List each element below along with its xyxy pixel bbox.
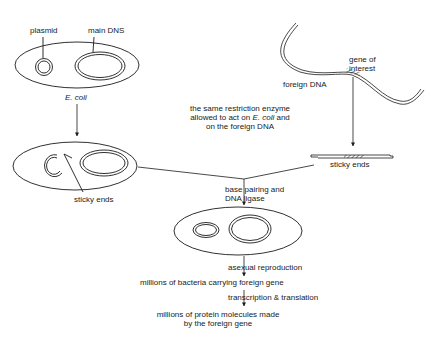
label-sticky-ends-right: sticky ends <box>330 160 370 170</box>
text-ecoli: E. coli <box>252 113 274 122</box>
ecoli-cell-recombinant <box>174 207 302 255</box>
label-transcription: transcription & translation <box>228 293 318 303</box>
label-sticky-ends-left: sticky ends <box>74 195 114 205</box>
converging-lines <box>138 165 314 179</box>
ecoli-cell-original <box>15 37 139 88</box>
label-asexual: asexual reproduction <box>228 263 302 273</box>
fragment-hatch <box>344 155 364 158</box>
label-main-dna: main DNS <box>88 26 124 36</box>
text: and <box>274 113 290 122</box>
label-millions-bacteria: millions of bacteria carrying foreign ge… <box>140 278 284 288</box>
text: allowed to act on <box>190 113 252 122</box>
label-dna-ligase: DNA ligase <box>225 194 265 204</box>
label-interest: interest <box>349 64 375 74</box>
label-foreign-dna: foreign DNA <box>283 80 327 90</box>
label-restriction-3: on the foreign DNA <box>160 122 320 132</box>
label-ecoli: E. coli <box>65 93 87 103</box>
label-plasmid: plasmid <box>30 26 58 36</box>
ecoli-cell-cut <box>13 142 137 192</box>
diagram-canvas <box>0 0 434 342</box>
label-millions-protein-2: by the foreign gene <box>148 319 288 329</box>
